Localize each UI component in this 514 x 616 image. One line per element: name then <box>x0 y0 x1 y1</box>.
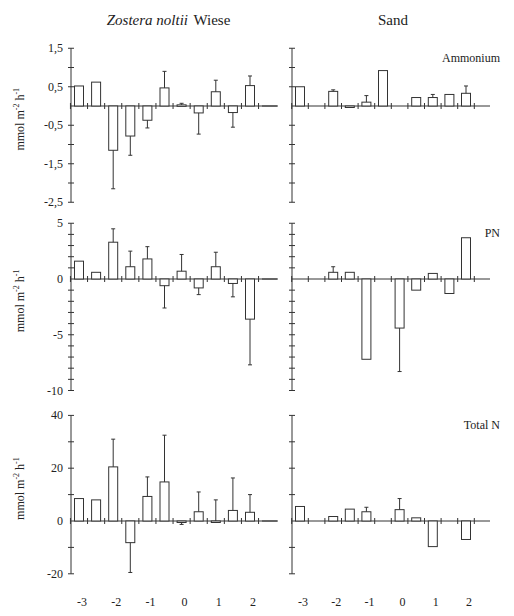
bar <box>109 467 118 521</box>
bar <box>75 86 84 106</box>
x-tick-label: -1 <box>364 595 374 609</box>
bar <box>428 98 437 106</box>
x-tick-label: 0 <box>400 595 406 609</box>
bar <box>246 279 255 319</box>
bar <box>362 279 371 359</box>
bar <box>228 510 237 521</box>
y-tick-label: -0,5 <box>44 118 63 132</box>
bar <box>362 512 371 521</box>
bar <box>395 279 404 328</box>
bar <box>177 271 186 279</box>
panel-title: PN <box>485 226 501 240</box>
bar <box>160 279 169 286</box>
bar <box>177 521 186 523</box>
x-tick-label: 2 <box>466 595 472 609</box>
chart-canvas: Zostera noltii Wiese Sand 1,50,5-0,5-1,5… <box>0 0 514 616</box>
bar <box>362 102 371 106</box>
bar <box>345 272 354 279</box>
bar <box>345 106 354 108</box>
bar <box>412 518 421 521</box>
panel-title: Ammonium <box>442 51 501 65</box>
panel-title: Total N <box>464 418 500 432</box>
bar <box>246 512 255 521</box>
y-tick-label: 1,5 <box>48 41 63 55</box>
y-tick-label: 0 <box>57 272 63 286</box>
right-column-title: Sand <box>378 12 409 28</box>
bar <box>194 279 203 288</box>
y-tick-label: -20 <box>47 567 63 581</box>
y-tick-label: 0 <box>57 514 63 528</box>
panel-bottom-left: 40200-20mmol m-2 h-1-3-2-1012 <box>12 408 277 609</box>
x-tick-label: -3 <box>77 595 87 609</box>
y-axis-label: mmol m-2 h-1 <box>12 88 27 151</box>
bar <box>462 521 471 539</box>
bar <box>160 482 169 521</box>
bar <box>143 259 152 279</box>
bar <box>345 509 354 521</box>
bar <box>412 279 421 290</box>
x-tick-label: -3 <box>298 595 308 609</box>
y-tick-label: 0,5 <box>48 80 63 94</box>
panel-middle-right: PN <box>262 223 500 390</box>
x-tick-label: 1 <box>433 595 439 609</box>
y-axis-label: mmol m-2 h-1 <box>12 270 27 333</box>
bar <box>412 98 421 106</box>
bar <box>194 106 203 113</box>
bar <box>462 238 471 279</box>
bar <box>395 510 404 521</box>
left-column-title: Zostera noltii <box>107 12 188 28</box>
panels: 1,50,5-0,5-1,5-2,5mmol m-2 h-1Ammonium50… <box>12 41 501 609</box>
y-axis-label: mmol m-2 h-1 <box>12 457 27 520</box>
bar <box>329 91 338 106</box>
bar <box>228 106 237 113</box>
panel-top-right: Ammonium <box>262 48 501 202</box>
bar <box>75 499 84 521</box>
y-tick-label: -10 <box>47 384 63 398</box>
x-tick-label: 0 <box>182 595 188 609</box>
figure: Zostera noltii Wiese Sand 1,50,5-0,5-1,5… <box>0 0 514 616</box>
bar <box>211 92 220 106</box>
bar <box>379 71 388 106</box>
bar <box>211 521 220 523</box>
y-tick-label: 20 <box>51 461 63 475</box>
panel-bottom-right: Total N-3-2-1012 <box>262 415 500 609</box>
x-tick-label: -2 <box>111 595 121 609</box>
bar <box>126 521 135 543</box>
bar <box>445 94 454 106</box>
bar <box>329 272 338 279</box>
bar <box>143 496 152 521</box>
bar <box>462 93 471 106</box>
panel-middle-left: 50-5-10mmol m-2 h-1 <box>12 216 277 397</box>
bar <box>92 500 101 521</box>
bar <box>296 506 305 521</box>
panel-top-left: 1,50,5-0,5-1,5-2,5mmol m-2 h-1 <box>12 41 277 209</box>
bar <box>177 105 186 107</box>
left-column-title-suffix: Wiese <box>190 12 231 28</box>
bar <box>109 106 118 150</box>
bar <box>109 242 118 279</box>
bar <box>143 106 152 120</box>
bar <box>246 86 255 106</box>
bar <box>296 87 305 106</box>
bar <box>92 82 101 106</box>
bar <box>92 272 101 279</box>
x-tick-label: -1 <box>145 595 155 609</box>
bar <box>160 88 169 106</box>
bar <box>75 261 84 279</box>
bar <box>211 267 220 279</box>
column-title-italic: Zostera noltii <box>107 12 188 28</box>
x-tick-label: 1 <box>216 595 222 609</box>
y-tick-label: -5 <box>53 328 63 342</box>
bar <box>126 267 135 279</box>
x-tick-label: 2 <box>250 595 256 609</box>
bar <box>329 517 338 521</box>
bar <box>228 279 237 283</box>
bar <box>428 273 437 279</box>
bar <box>194 512 203 521</box>
y-tick-label: 40 <box>51 408 63 422</box>
y-tick-label: 5 <box>57 216 63 230</box>
x-tick-label: -2 <box>331 595 341 609</box>
bar <box>428 521 437 547</box>
y-tick-label: -1,5 <box>44 157 63 171</box>
bar <box>445 279 454 293</box>
